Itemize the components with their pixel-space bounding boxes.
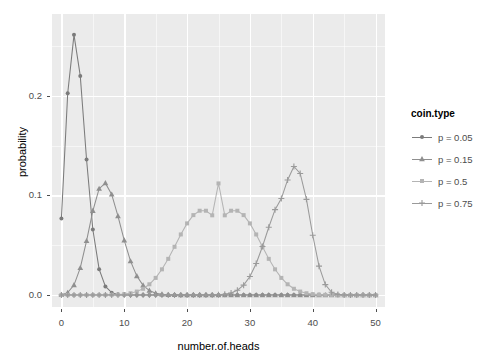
y-tick-mark <box>47 96 50 97</box>
x-tick-label: 50 <box>361 317 391 328</box>
data-point-triangle <box>419 156 425 161</box>
x-tick-label: 30 <box>235 317 265 328</box>
data-point-plus <box>102 292 108 298</box>
data-point-square <box>292 287 296 291</box>
x-tick-mark <box>187 309 188 312</box>
series-layer <box>52 14 385 307</box>
data-point-plus <box>310 232 316 238</box>
legend-items: p = 0.05p = 0.15p = 0.5p = 0.75 <box>411 126 473 214</box>
y-axis-title: probability <box>16 72 28 232</box>
chart-root: 0.00.10.201020304050 number.of.heads pro… <box>0 0 483 363</box>
legend: coin.type p = 0.05p = 0.15p = 0.5p = 0.7… <box>411 108 473 214</box>
legend-item-3[interactable]: p = 0.75 <box>411 192 473 214</box>
data-point-triangle <box>109 191 115 196</box>
x-tick-label: 0 <box>46 317 76 328</box>
legend-key-square-icon <box>411 170 433 192</box>
legend-item-label: p = 0.75 <box>438 198 473 209</box>
legend-item-1[interactable]: p = 0.15 <box>411 148 473 170</box>
data-point-circle <box>66 91 70 95</box>
x-axis-title: number.of.heads <box>52 340 385 352</box>
data-point-square <box>273 267 277 271</box>
x-tick-label: 40 <box>298 317 328 328</box>
data-point-plus <box>272 207 278 213</box>
series-line <box>61 183 375 295</box>
data-point-square <box>166 257 170 261</box>
data-point-triangle <box>121 237 127 242</box>
data-point-square <box>173 245 177 249</box>
x-tick-mark <box>61 309 62 312</box>
data-point-square <box>191 213 195 217</box>
data-point-plus <box>285 177 291 183</box>
series-2 <box>59 181 377 297</box>
x-tick-mark <box>376 309 377 312</box>
y-tick-mark <box>47 295 50 296</box>
data-point-circle <box>97 267 101 271</box>
data-point-square <box>304 291 308 295</box>
data-point-circle <box>420 135 424 139</box>
data-point-square <box>298 290 302 294</box>
data-point-plus <box>84 292 90 298</box>
x-tick-mark <box>124 309 125 312</box>
data-point-triangle <box>134 273 140 278</box>
data-point-plus <box>419 200 425 206</box>
plot-panel <box>52 14 385 307</box>
data-point-plus <box>146 292 152 298</box>
data-point-square <box>267 257 271 261</box>
data-point-square <box>279 276 283 280</box>
data-point-plus <box>115 292 121 298</box>
data-point-plus <box>77 292 83 298</box>
data-point-square <box>311 292 315 296</box>
legend-key-symbol <box>411 192 433 214</box>
data-point-circle <box>78 74 82 78</box>
x-tick-label: 10 <box>109 317 139 328</box>
legend-item-label: p = 0.5 <box>438 176 467 187</box>
data-point-triangle <box>77 265 83 270</box>
data-point-plus <box>140 292 146 298</box>
series-line <box>61 183 375 295</box>
data-point-triangle <box>128 258 134 263</box>
legend-item-0[interactable]: p = 0.05 <box>411 126 473 148</box>
series-0 <box>59 33 377 297</box>
data-point-triangle <box>71 282 77 287</box>
data-point-circle <box>59 216 63 220</box>
data-point-circle <box>91 227 95 231</box>
data-point-square <box>210 213 214 217</box>
legend-key-symbol <box>411 148 433 170</box>
data-point-circle <box>85 158 89 162</box>
x-tick-mark <box>313 309 314 312</box>
data-point-square <box>154 276 158 280</box>
legend-key-circle-icon <box>411 126 433 148</box>
data-point-plus <box>159 292 165 298</box>
data-point-triangle <box>115 213 121 218</box>
legend-key-triangle-icon <box>411 148 433 170</box>
data-point-square <box>160 267 164 271</box>
data-point-triangle <box>103 180 109 185</box>
data-point-square <box>254 232 258 236</box>
data-point-circle <box>103 284 107 288</box>
data-point-square <box>323 293 327 297</box>
data-point-plus <box>121 292 127 298</box>
data-point-plus <box>90 292 96 298</box>
legend-item-label: p = 0.15 <box>438 154 473 165</box>
x-tick-mark <box>250 309 251 312</box>
data-point-square <box>229 209 233 213</box>
data-point-triangle <box>84 238 90 243</box>
data-point-square <box>420 179 424 183</box>
data-point-square <box>204 209 208 213</box>
data-point-square <box>248 221 252 225</box>
series-line <box>61 35 375 295</box>
data-point-plus <box>266 224 272 230</box>
legend-title: coin.type <box>411 108 473 119</box>
legend-item-2[interactable]: p = 0.5 <box>411 170 473 192</box>
y-tick-mark <box>47 195 50 196</box>
series-1 <box>59 180 379 297</box>
legend-item-label: p = 0.05 <box>438 132 473 143</box>
data-point-square <box>185 221 189 225</box>
data-point-plus <box>153 292 159 298</box>
data-point-square <box>317 293 321 297</box>
data-point-plus <box>134 292 140 298</box>
data-point-plus <box>96 292 102 298</box>
data-point-square <box>223 213 227 217</box>
data-point-plus <box>259 244 265 250</box>
data-point-square <box>286 282 290 286</box>
